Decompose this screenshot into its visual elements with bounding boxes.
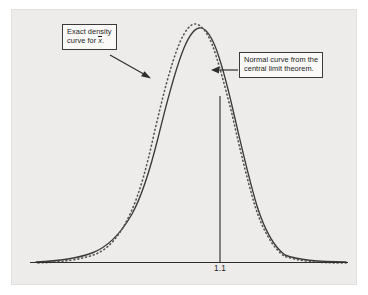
exact-density-callout-line-2: curve for x. (67, 36, 112, 45)
x-bar-symbol: x (98, 36, 102, 45)
exact-density-callout: Exact density curve for x. (62, 24, 117, 50)
x-axis-tick-label: 1.1 (206, 264, 234, 273)
exact-density-arrow (110, 55, 151, 79)
exact-density-callout-line-2-prefix: curve for (67, 36, 98, 45)
normal-clt-callout: Normal curve from the central limit theo… (239, 52, 323, 78)
exact-density-callout-line-2-suffix: . (102, 36, 104, 45)
normal-clt-arrow (211, 67, 238, 74)
density-curve-plot (0, 0, 368, 295)
normal-clt-callout-line-2: central limit theorem. (244, 64, 318, 73)
normal-clt-callout-line-1: Normal curve from the (244, 55, 318, 64)
exact-density-callout-line-1: Exact density (67, 27, 112, 36)
figure-screenshot: Exact density curve for x. Normal curve … (0, 0, 368, 295)
